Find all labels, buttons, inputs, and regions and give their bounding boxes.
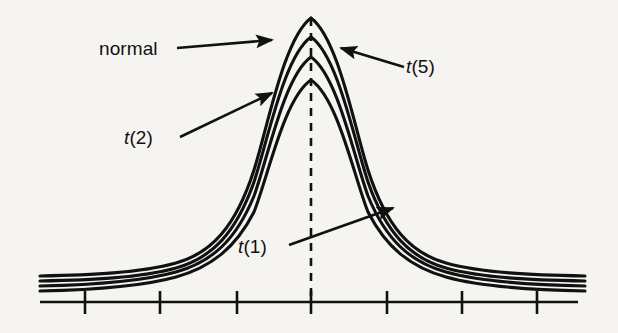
label-t5: t(5) [406, 56, 435, 78]
label-t1: t(1) [238, 236, 267, 258]
arrow-t5 [341, 48, 404, 67]
label-t1-df: (1) [243, 236, 267, 257]
arrow-t2 [180, 93, 272, 137]
arrow-normal [177, 40, 272, 48]
figure-canvas [0, 0, 618, 333]
t-distribution-figure: normal t(2) t(5) t(1) [0, 0, 618, 333]
label-normal-text: normal [99, 38, 158, 59]
label-t2-df: (2) [129, 127, 153, 148]
curve-t1 [40, 80, 585, 291]
label-t5-df: (5) [411, 56, 435, 77]
curve-t2 [40, 57, 585, 286]
label-t2: t(2) [124, 127, 153, 149]
label-normal: normal [99, 38, 158, 60]
curve-t5 [40, 37, 585, 281]
